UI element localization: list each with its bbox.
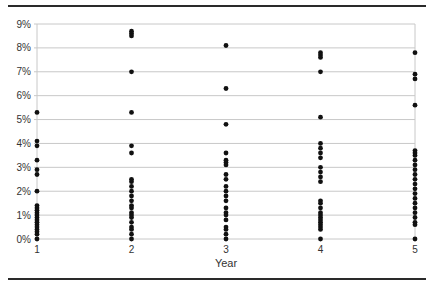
data-point — [224, 189, 229, 194]
data-point — [413, 182, 418, 187]
data-point — [413, 222, 418, 227]
data-points — [35, 29, 418, 242]
data-point — [318, 227, 323, 232]
data-point — [318, 69, 323, 74]
data-point — [129, 198, 134, 203]
data-point — [318, 201, 323, 206]
x-tick-label: 3 — [223, 244, 229, 255]
data-point — [129, 110, 134, 115]
data-point — [413, 172, 418, 177]
data-point — [318, 141, 323, 146]
data-point — [224, 163, 229, 168]
x-tick-label: 2 — [129, 244, 135, 255]
data-point — [35, 167, 40, 172]
y-tick-label: 3% — [17, 162, 32, 173]
data-point — [224, 198, 229, 203]
data-point — [413, 206, 418, 211]
data-point — [35, 237, 40, 242]
data-point — [224, 184, 229, 189]
data-point — [413, 77, 418, 82]
y-tick-label: 8% — [17, 42, 32, 53]
data-point — [413, 103, 418, 108]
data-point — [129, 189, 134, 194]
data-point — [35, 110, 40, 115]
data-point — [224, 177, 229, 182]
data-point — [413, 167, 418, 172]
data-point — [224, 213, 229, 218]
data-point — [413, 153, 418, 158]
data-point — [318, 179, 323, 184]
data-point — [318, 174, 323, 179]
data-point — [224, 237, 229, 242]
x-axis-title: Year — [215, 257, 238, 269]
data-point — [224, 172, 229, 177]
data-point — [35, 158, 40, 163]
data-point — [413, 237, 418, 242]
y-tick-label: 2% — [17, 186, 32, 197]
data-point — [224, 232, 229, 237]
data-point — [224, 217, 229, 222]
data-point — [224, 122, 229, 127]
data-point — [129, 232, 134, 237]
data-point — [318, 151, 323, 156]
data-point — [413, 196, 418, 201]
data-point — [224, 194, 229, 199]
data-point — [224, 151, 229, 156]
data-point — [413, 163, 418, 168]
y-tick-label: 4% — [17, 138, 32, 149]
data-point — [129, 206, 134, 211]
data-point — [224, 86, 229, 91]
data-point — [129, 227, 134, 232]
data-point — [129, 184, 134, 189]
data-point — [413, 215, 418, 220]
data-point — [224, 227, 229, 232]
data-point — [318, 165, 323, 170]
bottom-rule — [8, 278, 426, 280]
data-point — [413, 186, 418, 191]
data-point — [129, 215, 134, 220]
data-point — [413, 177, 418, 182]
data-point — [129, 151, 134, 156]
x-axis-tick-labels: 12345 — [34, 244, 418, 255]
data-point — [318, 155, 323, 160]
data-point — [129, 34, 134, 39]
y-tick-label: 7% — [17, 66, 32, 77]
x-tick-label: 1 — [34, 244, 40, 255]
data-point — [413, 72, 418, 77]
data-point — [129, 220, 134, 225]
data-point — [35, 143, 40, 148]
x-tick-label: 4 — [318, 244, 324, 255]
data-point — [224, 206, 229, 211]
data-point — [413, 50, 418, 55]
y-tick-label: 0% — [17, 234, 32, 245]
data-point — [35, 139, 40, 144]
data-point — [318, 206, 323, 211]
y-tick-label: 9% — [17, 19, 32, 30]
data-point — [318, 146, 323, 151]
data-point — [413, 191, 418, 196]
y-axis-tick-labels: 0%1%2%3%4%5%6%7%8%9% — [17, 19, 32, 245]
y-tick-label: 5% — [17, 114, 32, 125]
data-point — [35, 232, 40, 237]
data-point — [129, 143, 134, 148]
data-point — [318, 55, 323, 60]
data-point — [318, 170, 323, 175]
x-tick-label: 5 — [412, 244, 418, 255]
data-point — [413, 210, 418, 215]
data-point — [413, 201, 418, 206]
data-point — [318, 115, 323, 120]
data-point — [129, 194, 134, 199]
data-point — [318, 237, 323, 242]
data-point — [413, 158, 418, 163]
y-tick-label: 6% — [17, 90, 32, 101]
data-point — [129, 237, 134, 242]
data-point — [35, 189, 40, 194]
data-point — [129, 69, 134, 74]
data-point — [224, 43, 229, 48]
y-tick-label: 1% — [17, 210, 32, 221]
data-point — [129, 179, 134, 184]
data-point — [35, 172, 40, 177]
scatter-chart: 0%1%2%3%4%5%6%7%8%9% 12345 Year — [0, 0, 434, 288]
